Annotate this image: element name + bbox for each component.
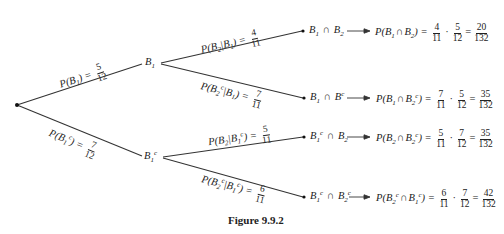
probability-tree-diagram: B1 B1c P(B1) = 512 P(B1c) = 712 P(B2|B1)… [0, 0, 504, 234]
leaf-dot-3 [302, 135, 305, 138]
result-row-1: P(B1∩B2) = 411·512=20132 [375, 23, 491, 43]
root-node-dot [15, 103, 19, 107]
leaf-dot-4 [302, 195, 305, 198]
node-b1: B1 [145, 57, 155, 68]
result-row-2: P(B1∩B2c) = 711·512=35132 [376, 90, 495, 110]
outcome-b1-and-bc: B1 ∩ Bc [310, 92, 344, 103]
result-row-3: P(B2∩B2c) = 511·712=35132 [376, 129, 495, 149]
leaf-dot-2 [302, 96, 305, 99]
fraction: 511 [259, 124, 273, 145]
node-b1-complement: B1c [144, 151, 157, 162]
leaf-dot-1 [301, 29, 304, 32]
outcome-b1-and-b2: B1 ∩ B2 [309, 25, 344, 36]
outcome-b1c-and-b2c: B1c ∩ B2c [310, 191, 351, 202]
figure-caption: Figure 9.9.2 [228, 214, 284, 226]
outcome-b1c-and-b2: B1c ∩ B2 [310, 131, 348, 142]
result-row-4: P(B2c∩B1c) = 611·712=42132 [376, 189, 498, 209]
